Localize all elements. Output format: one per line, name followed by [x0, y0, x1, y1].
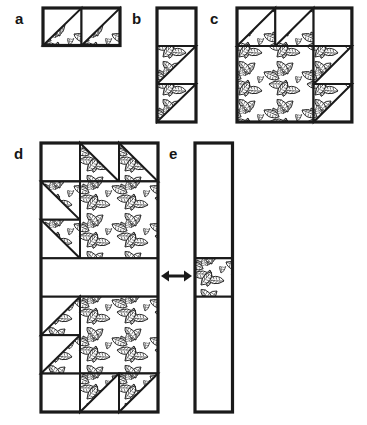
cell-hst [80, 143, 119, 181]
cell-hst [41, 335, 80, 373]
panel-b-block [157, 8, 196, 122]
cell-hst [43, 8, 82, 46]
cell-hst [41, 297, 80, 335]
panel-d-block [41, 143, 158, 412]
cell-plain [195, 297, 233, 412]
cell-plain [41, 143, 80, 181]
cell-plain [41, 374, 80, 412]
cell-leaf [80, 181, 158, 258]
cell-hst [237, 8, 275, 46]
cell-hst [41, 181, 80, 219]
cell-plain [314, 8, 352, 46]
label-a: a [15, 11, 23, 26]
panel-c-block [237, 8, 352, 122]
cell-hst [275, 8, 313, 46]
figure-canvas: a b c d e [0, 0, 367, 425]
cell-hst [314, 46, 352, 84]
label-e: e [169, 146, 177, 161]
cell-plain [41, 258, 158, 296]
cell-hst [119, 374, 158, 412]
label-d: d [14, 146, 23, 161]
cell-plain [195, 143, 233, 258]
cell-leaf [237, 46, 314, 122]
label-b: b [132, 11, 141, 26]
cell-plain [157, 8, 196, 46]
cell-hst [157, 46, 196, 84]
panel-e-block [195, 143, 233, 412]
cell-hst [119, 143, 158, 181]
quilt-diagram-svg [0, 0, 367, 425]
double-arrow-icon [161, 271, 192, 282]
cell-leaf [80, 297, 158, 374]
cell-hst [41, 220, 80, 258]
panel-a-block [43, 8, 120, 46]
cell-hst [157, 84, 196, 122]
cell-leaf [195, 258, 233, 296]
label-c: c [210, 11, 218, 26]
cell-hst [314, 84, 352, 122]
cell-hst [80, 374, 119, 412]
cell-hst [82, 8, 121, 46]
